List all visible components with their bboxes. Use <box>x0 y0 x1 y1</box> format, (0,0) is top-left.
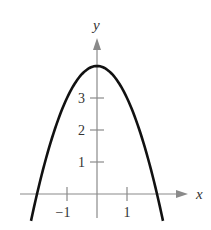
y-tick-label: 1 <box>78 155 85 170</box>
y-tick-label: 3 <box>78 91 85 106</box>
x-tick-label: 1 <box>124 205 131 220</box>
parabola-chart: −11 123 x y <box>0 0 211 230</box>
y-axis-arrow-icon <box>93 38 101 50</box>
y-axis-label: y <box>91 17 100 33</box>
y-tick-label: 2 <box>78 123 85 138</box>
y-ticks: 123 <box>78 91 104 170</box>
x-tick-label: −1 <box>56 205 71 220</box>
x-axis-label: x <box>195 186 203 202</box>
x-ticks: −11 <box>56 187 131 220</box>
x-axis-arrow-icon <box>176 190 188 198</box>
